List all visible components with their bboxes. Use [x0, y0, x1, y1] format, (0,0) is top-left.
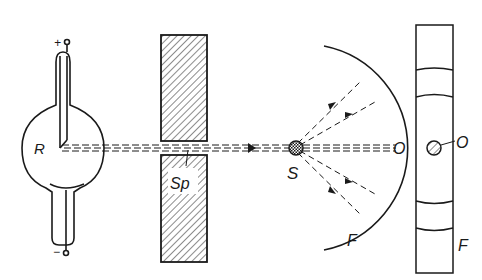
film-strip-spot [427, 141, 441, 155]
film-strip-spot-label: O [456, 134, 468, 151]
beam-exit-label: O [393, 140, 405, 157]
cathode-terminal-label: − [53, 245, 60, 259]
anode-terminal-label: + [54, 36, 61, 50]
film-arc-label: F [347, 232, 358, 249]
sample-label: S [287, 164, 299, 183]
sample [289, 141, 303, 155]
slit-label: Sp [170, 175, 190, 192]
film-strip-label: F [458, 237, 469, 254]
tube-label: R [34, 140, 45, 157]
transmitted-beam [303, 145, 396, 151]
diffraction-diagram: R + − Sp S F O [0, 0, 482, 280]
